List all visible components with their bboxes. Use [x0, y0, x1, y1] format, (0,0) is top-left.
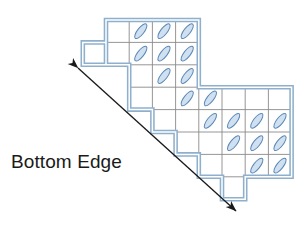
bottom-edge-label: Bottom Edge	[11, 151, 122, 172]
figure-canvas: Bottom Edge	[0, 0, 298, 247]
staircase-polyomino-figure: Bottom Edge	[0, 0, 298, 247]
